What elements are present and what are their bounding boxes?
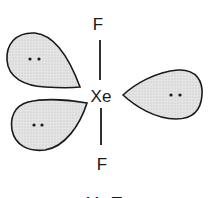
fluorine-top-label: F xyxy=(93,15,103,34)
fluorine-bottom-label: F xyxy=(97,155,107,174)
electron-dot xyxy=(37,57,40,60)
caption: XeF₂ xyxy=(86,193,130,198)
electron-dot xyxy=(178,93,181,96)
electron-dot xyxy=(169,93,172,96)
electron-dot xyxy=(32,123,35,126)
lone-pair-lobe-upper-left xyxy=(7,33,80,88)
lone-pair-lobe-right xyxy=(123,70,202,119)
electron-dot xyxy=(28,57,31,60)
electron-dot xyxy=(40,123,43,126)
lone-pair-lobe-lower-left xyxy=(12,100,87,151)
xef2-lone-pair-diagram: F Xe F XeF₂ xyxy=(0,0,209,198)
xenon-label: Xe xyxy=(91,87,112,106)
